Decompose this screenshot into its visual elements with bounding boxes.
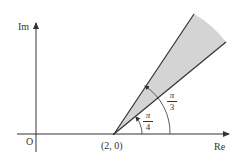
real-axis-label: Re: [214, 142, 225, 152]
vertex-point: [113, 133, 115, 135]
imaginary-axis-label: Im: [18, 22, 29, 32]
angle-label-pi-over-3: π 3: [167, 91, 177, 112]
angle-arc-pi-over-4: [136, 117, 142, 134]
shaded-sector: [114, 14, 226, 134]
fraction-denominator: 3: [167, 102, 177, 112]
fraction-numerator: π: [167, 91, 177, 102]
vertex-label: (2, 0): [101, 141, 123, 151]
origin-label: O: [26, 137, 33, 147]
fraction-numerator: π: [143, 111, 153, 122]
angle-label-pi-over-4: π 4: [143, 111, 153, 132]
fraction-denominator: 4: [143, 122, 153, 132]
